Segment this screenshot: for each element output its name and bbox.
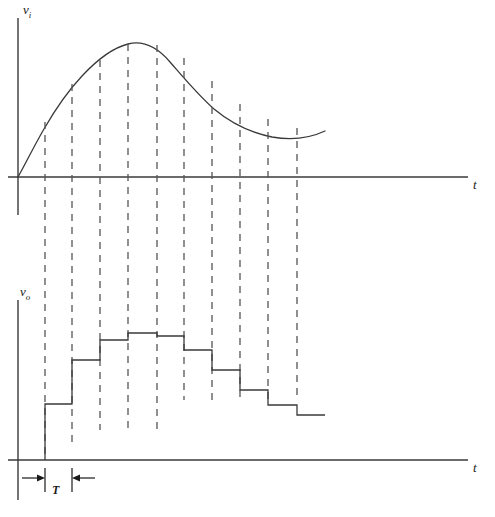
waveform-canvas: | ============ --> bbox=[0, 0, 495, 517]
period-arrowhead-left bbox=[37, 475, 45, 482]
output-staircase-waveform bbox=[45, 333, 325, 460]
output-panel bbox=[8, 300, 468, 500]
output-signal-subscript: o bbox=[26, 292, 31, 302]
input-time-axis-label: t bbox=[473, 177, 477, 193]
input-panel bbox=[8, 18, 468, 215]
waveform-figure: | ============ --> vi vo t t T bbox=[0, 0, 495, 517]
output-signal-label: vo bbox=[20, 284, 30, 302]
sample-dashed-lines bbox=[45, 44, 297, 460]
input-signal-subscript: i bbox=[29, 10, 32, 20]
input-signal-curve bbox=[18, 43, 325, 177]
period-arrowhead-right bbox=[72, 475, 80, 482]
output-time-axis-label: t bbox=[473, 460, 477, 476]
sampling-period-label: T bbox=[52, 483, 59, 498]
input-signal-label: vi bbox=[23, 2, 31, 20]
